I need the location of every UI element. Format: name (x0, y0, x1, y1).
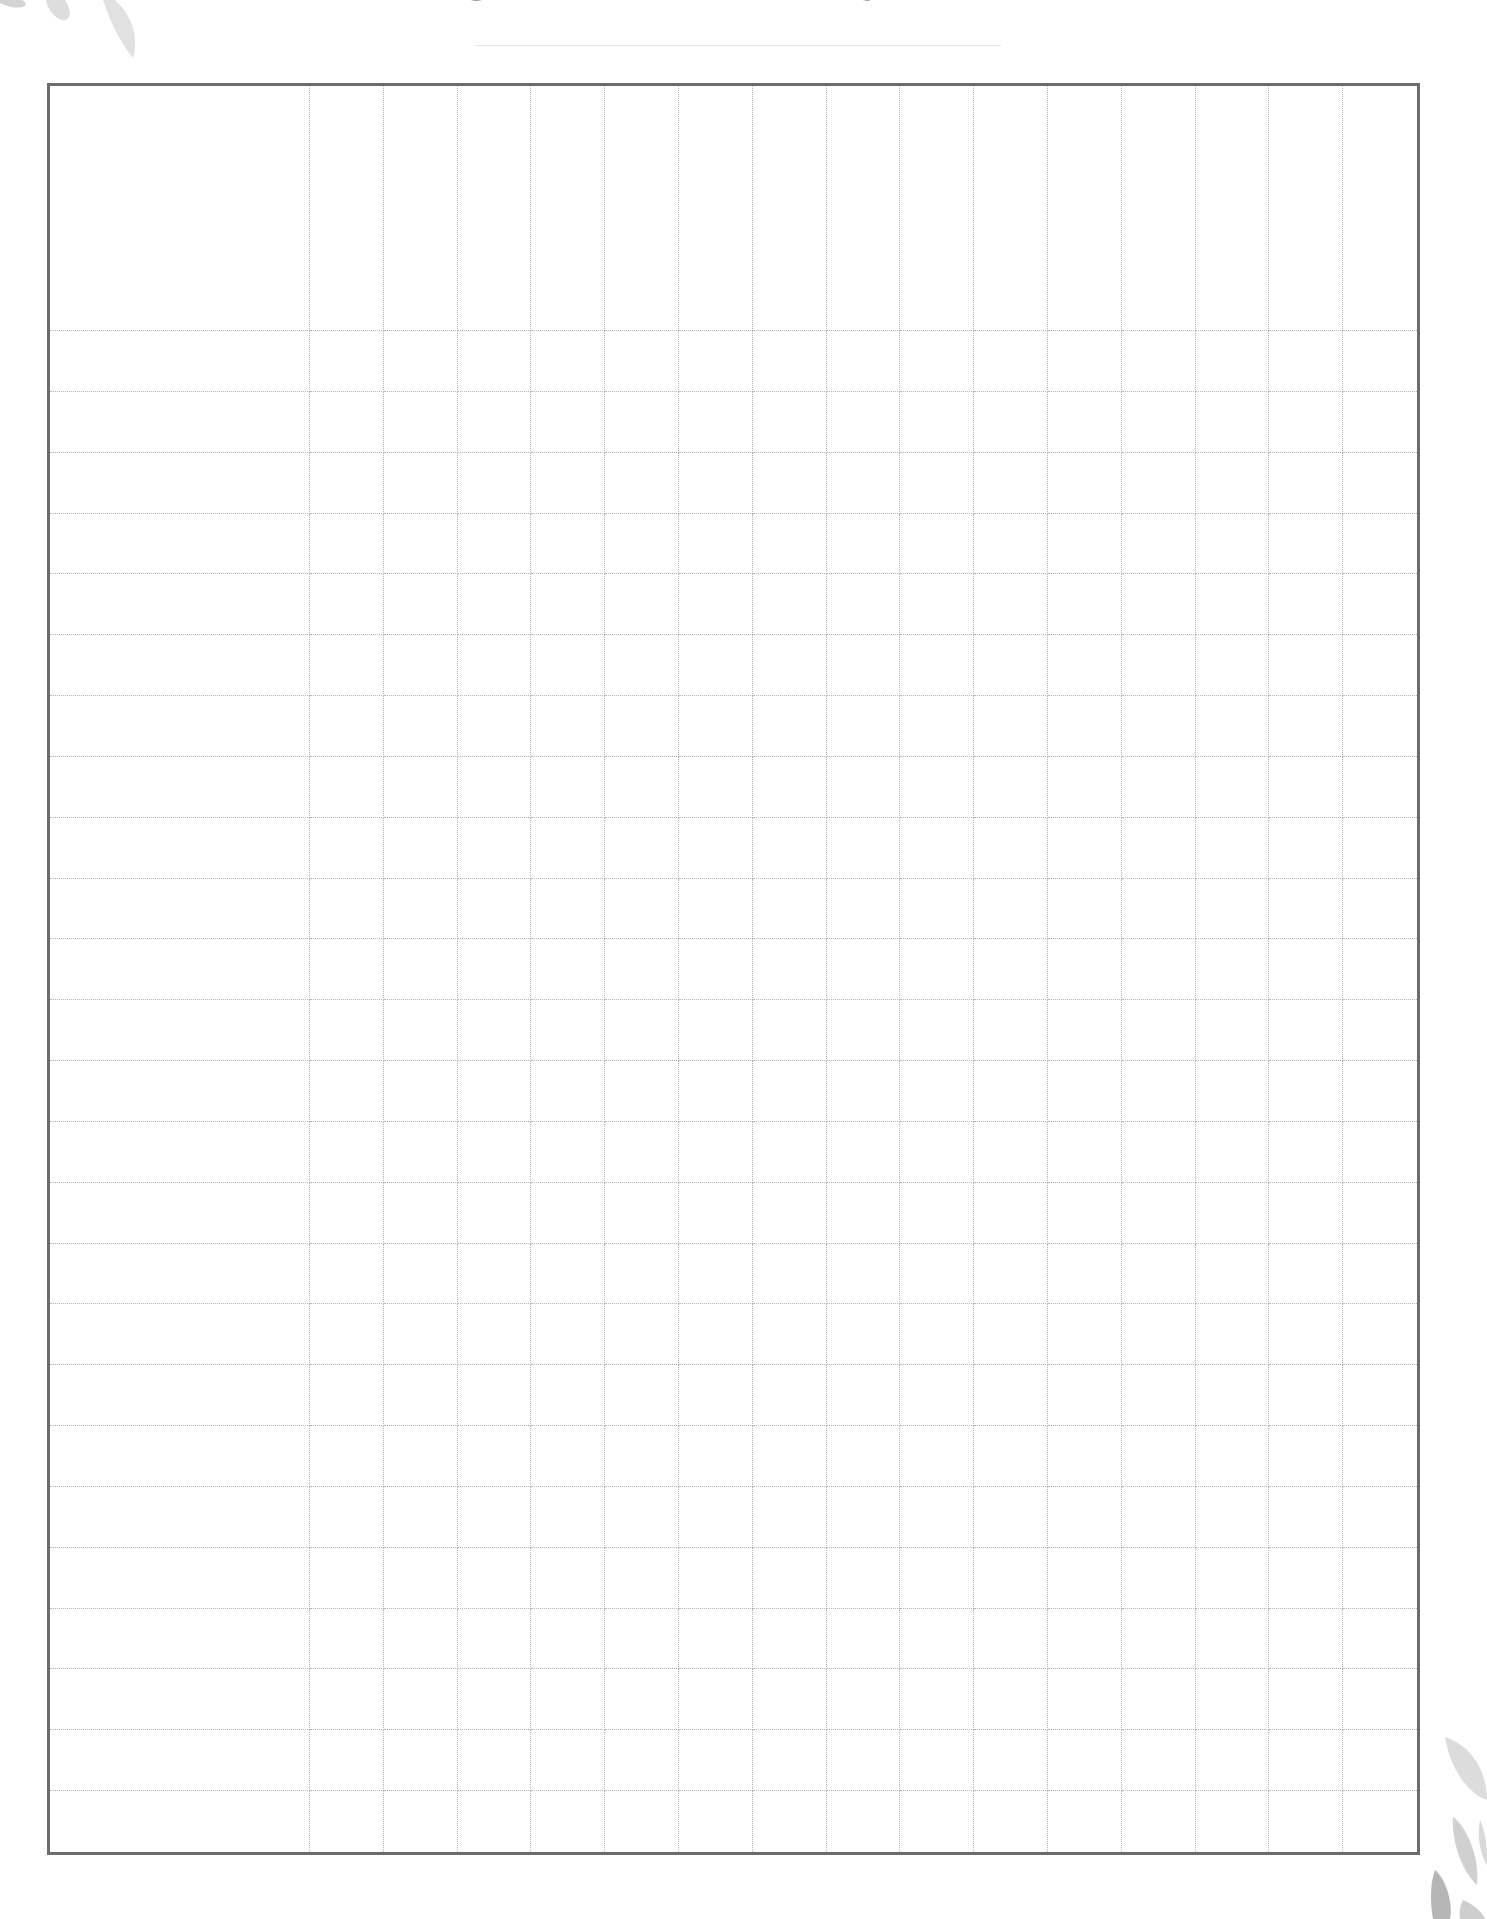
student-name-cell[interactable] (50, 939, 310, 1000)
header-assignment-cell[interactable] (1343, 86, 1417, 331)
grade-cell[interactable] (531, 1609, 605, 1670)
grade-cell[interactable] (458, 1365, 532, 1426)
grade-cell[interactable] (458, 392, 532, 453)
grade-cell[interactable] (1343, 1669, 1417, 1730)
grade-cell[interactable] (310, 1061, 384, 1122)
grade-cell[interactable] (384, 1426, 458, 1487)
grade-cell[interactable] (605, 392, 679, 453)
grade-cell[interactable] (1343, 1365, 1417, 1426)
student-name-cell[interactable] (50, 392, 310, 453)
grade-cell[interactable] (1048, 696, 1122, 757)
grade-cell[interactable] (900, 453, 974, 514)
grade-cell[interactable] (753, 1061, 827, 1122)
grade-cell[interactable] (1122, 514, 1196, 575)
grade-cell[interactable] (384, 1791, 458, 1852)
student-name-cell[interactable] (50, 1365, 310, 1426)
grade-cell[interactable] (1269, 574, 1343, 635)
grade-cell[interactable] (974, 331, 1048, 392)
grade-cell[interactable] (974, 453, 1048, 514)
grade-cell[interactable] (1122, 696, 1196, 757)
grade-cell[interactable] (1196, 453, 1270, 514)
grade-cell[interactable] (679, 1122, 753, 1183)
grade-cell[interactable] (900, 1122, 974, 1183)
grade-cell[interactable] (1122, 1426, 1196, 1487)
grade-cell[interactable] (827, 1122, 901, 1183)
grade-cell[interactable] (1122, 1669, 1196, 1730)
grade-cell[interactable] (531, 1183, 605, 1244)
grade-cell[interactable] (1269, 1365, 1343, 1426)
grade-cell[interactable] (1196, 1791, 1270, 1852)
grade-cell[interactable] (384, 1244, 458, 1305)
grade-cell[interactable] (679, 1791, 753, 1852)
grade-cell[interactable] (531, 1730, 605, 1791)
grade-cell[interactable] (900, 879, 974, 940)
grade-cell[interactable] (1122, 392, 1196, 453)
grade-cell[interactable] (605, 1061, 679, 1122)
grade-cell[interactable] (974, 1548, 1048, 1609)
grade-cell[interactable] (679, 1304, 753, 1365)
grade-cell[interactable] (458, 1244, 532, 1305)
grade-cell[interactable] (827, 1609, 901, 1670)
grade-cell[interactable] (900, 818, 974, 879)
grade-cell[interactable] (1343, 1244, 1417, 1305)
grade-cell[interactable] (310, 635, 384, 696)
grade-cell[interactable] (1196, 1487, 1270, 1548)
grade-cell[interactable] (310, 1304, 384, 1365)
grade-cell[interactable] (310, 331, 384, 392)
grade-cell[interactable] (1122, 1183, 1196, 1244)
grade-cell[interactable] (1122, 939, 1196, 1000)
grade-cell[interactable] (974, 1365, 1048, 1426)
grade-cell[interactable] (1048, 757, 1122, 818)
grade-cell[interactable] (458, 514, 532, 575)
grade-cell[interactable] (1343, 453, 1417, 514)
grade-cell[interactable] (679, 1426, 753, 1487)
grade-cell[interactable] (753, 1304, 827, 1365)
grade-cell[interactable] (1196, 1000, 1270, 1061)
grade-cell[interactable] (900, 696, 974, 757)
grade-cell[interactable] (679, 574, 753, 635)
header-assignment-cell[interactable] (531, 86, 605, 331)
grade-cell[interactable] (384, 696, 458, 757)
grade-cell[interactable] (605, 1304, 679, 1365)
grade-cell[interactable] (1343, 574, 1417, 635)
student-name-cell[interactable] (50, 1426, 310, 1487)
grade-cell[interactable] (900, 1304, 974, 1365)
grade-cell[interactable] (974, 1000, 1048, 1061)
grade-cell[interactable] (827, 879, 901, 940)
grade-cell[interactable] (753, 635, 827, 696)
grade-cell[interactable] (1048, 1487, 1122, 1548)
grade-cell[interactable] (1196, 1609, 1270, 1670)
grade-cell[interactable] (974, 392, 1048, 453)
grade-cell[interactable] (458, 1122, 532, 1183)
grade-cell[interactable] (458, 879, 532, 940)
grade-cell[interactable] (827, 635, 901, 696)
grade-cell[interactable] (827, 1061, 901, 1122)
grade-cell[interactable] (753, 1426, 827, 1487)
header-assignment-cell[interactable] (679, 86, 753, 331)
header-assignment-cell[interactable] (1269, 86, 1343, 331)
grade-cell[interactable] (1343, 1791, 1417, 1852)
grade-cell[interactable] (458, 696, 532, 757)
grade-cell[interactable] (679, 696, 753, 757)
grade-cell[interactable] (605, 757, 679, 818)
header-assignment-cell[interactable] (827, 86, 901, 331)
grade-cell[interactable] (974, 879, 1048, 940)
grade-cell[interactable] (605, 1730, 679, 1791)
grade-cell[interactable] (384, 1183, 458, 1244)
grade-cell[interactable] (458, 939, 532, 1000)
student-name-cell[interactable] (50, 818, 310, 879)
grade-cell[interactable] (753, 1183, 827, 1244)
grade-cell[interactable] (1122, 818, 1196, 879)
grade-cell[interactable] (458, 1548, 532, 1609)
grade-cell[interactable] (605, 635, 679, 696)
grade-cell[interactable] (310, 1183, 384, 1244)
grade-cell[interactable] (531, 1791, 605, 1852)
grade-cell[interactable] (384, 453, 458, 514)
grade-cell[interactable] (679, 1365, 753, 1426)
student-name-cell[interactable] (50, 696, 310, 757)
grade-cell[interactable] (1048, 1365, 1122, 1426)
grade-cell[interactable] (900, 1487, 974, 1548)
grade-cell[interactable] (753, 1791, 827, 1852)
grade-cell[interactable] (1196, 514, 1270, 575)
grade-cell[interactable] (384, 1730, 458, 1791)
